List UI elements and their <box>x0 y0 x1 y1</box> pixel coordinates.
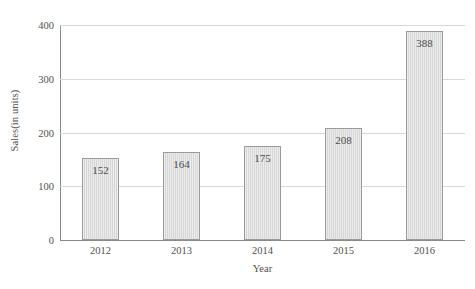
bar-2012[interactable]: 152 <box>82 158 119 240</box>
x-axis-spine <box>60 240 465 241</box>
bar-2015[interactable]: 208 <box>325 128 362 240</box>
bars-layer: 152164175208388 <box>60 25 465 240</box>
bar-value-label-2012: 152 <box>83 164 118 176</box>
x-axis-title: Year <box>60 263 465 274</box>
y-axis-tick-300: 300 <box>24 73 54 84</box>
x-axis-tick-2013: 2013 <box>171 245 192 256</box>
bar-2013[interactable]: 164 <box>163 152 200 240</box>
x-axis-tick-2014: 2014 <box>252 245 273 256</box>
plot-area: 152164175208388 <box>60 25 465 240</box>
bar-value-label-2013: 164 <box>164 158 199 170</box>
bar-value-label-2016: 388 <box>407 37 442 49</box>
x-axis-tick-labels: 20122013201420152016 <box>60 245 465 261</box>
y-axis-tick-200: 200 <box>24 127 54 138</box>
y-axis-tick-400: 400 <box>24 20 54 31</box>
bar-2016[interactable]: 388 <box>406 31 443 240</box>
y-axis-tick-0: 0 <box>24 235 54 246</box>
y-axis-title: Sales(in units) <box>6 0 24 240</box>
bar-value-label-2014: 175 <box>245 152 280 164</box>
bar-value-label-2015: 208 <box>326 134 361 146</box>
y-axis-tick-100: 100 <box>24 181 54 192</box>
bar-chart: Sales(in units) 0100200300400 1521641752… <box>0 0 475 289</box>
x-axis-tick-2015: 2015 <box>333 245 354 256</box>
x-axis-tick-2012: 2012 <box>90 245 111 256</box>
bar-2014[interactable]: 175 <box>244 146 281 240</box>
y-axis-tick-labels: 0100200300400 <box>24 0 54 289</box>
x-axis-tick-2016: 2016 <box>414 245 435 256</box>
y-axis-title-label: Sales(in units) <box>10 89 21 151</box>
